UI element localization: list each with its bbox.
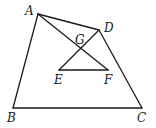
segment-AF xyxy=(38,14,108,70)
label-G: G xyxy=(75,33,85,47)
segment-AB xyxy=(13,14,38,108)
label-B: B xyxy=(6,111,16,125)
label-C: C xyxy=(137,111,146,125)
label-D: D xyxy=(103,21,114,35)
geometry-diagram: A D G E F B C xyxy=(0,0,156,128)
label-E: E xyxy=(53,73,63,87)
label-A: A xyxy=(24,4,34,18)
diagram-svg: A D G E F B C xyxy=(0,0,156,128)
label-F: F xyxy=(103,73,113,87)
segment-CD xyxy=(99,30,142,108)
